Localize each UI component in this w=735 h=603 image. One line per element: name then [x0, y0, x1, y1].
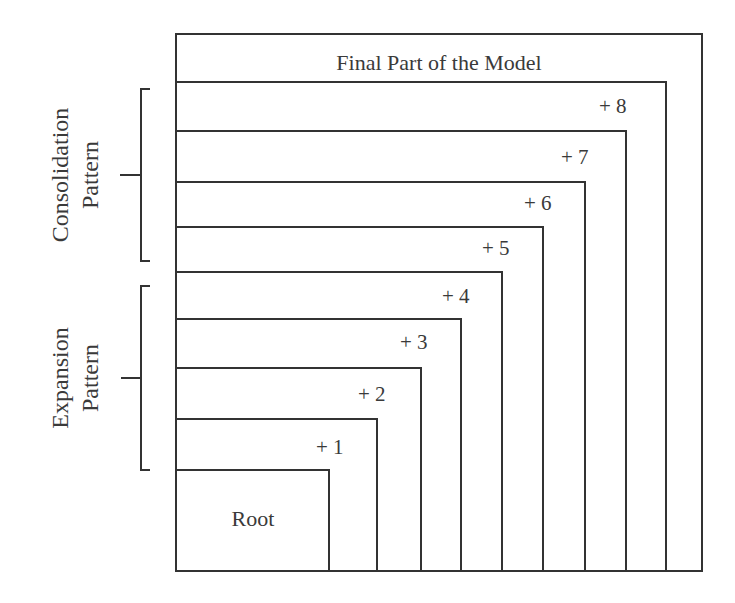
layer-3-label: + 3 — [400, 332, 428, 353]
expansion-pattern-label: Expansion Pattern — [45, 327, 105, 428]
expansion-label-line2: Pattern — [75, 327, 105, 428]
expansion-bracket-bottom-cap — [140, 469, 150, 471]
expansion-bracket-tick — [121, 377, 141, 379]
layer-7-label: + 7 — [561, 147, 589, 168]
expansion-label-line1: Expansion — [45, 327, 75, 428]
layer-2-label: + 2 — [358, 384, 386, 405]
consolidation-label-line1: Consolidation — [45, 108, 75, 243]
layer-6-label: + 6 — [524, 193, 552, 214]
layer-5-label: + 5 — [482, 238, 510, 259]
root-label: Root — [232, 508, 275, 530]
consolidation-bracket-bottom-cap — [140, 260, 150, 262]
expansion-bracket-top-cap — [140, 285, 150, 287]
consolidation-pattern-label: Consolidation Pattern — [45, 108, 105, 243]
consolidation-bracket-top-cap — [140, 88, 150, 90]
consolidation-bracket-tick — [120, 174, 141, 176]
layer-1-label: + 1 — [316, 437, 344, 458]
layer-4-label: + 4 — [442, 286, 470, 307]
consolidation-label-line2: Pattern — [75, 108, 105, 243]
layer-8-label: + 8 — [599, 96, 627, 117]
final-part-title: Final Part of the Model — [336, 52, 541, 74]
